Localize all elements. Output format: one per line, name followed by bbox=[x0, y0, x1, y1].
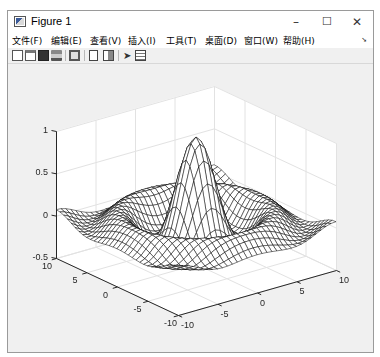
figure-window: Figure 1 – ☐ ✕ 文件(F) 编辑(E) 查看(V) 插入(I) 工… bbox=[7, 10, 374, 353]
toolbar-separator bbox=[118, 50, 119, 61]
maximize-button[interactable]: ☐ bbox=[312, 12, 342, 32]
toolbar-separator bbox=[84, 50, 85, 61]
x-tick-label: 10 bbox=[339, 275, 349, 285]
menu-help[interactable]: 帮助(H) bbox=[283, 34, 315, 47]
toolbar-separator bbox=[65, 50, 66, 61]
x-tick-label: 0 bbox=[260, 298, 265, 308]
y-tick-label: -10 bbox=[164, 318, 177, 328]
print-icon[interactable] bbox=[51, 50, 62, 61]
save-icon[interactable] bbox=[38, 50, 49, 61]
legend-icon[interactable] bbox=[103, 50, 114, 61]
menu-window[interactable]: 窗口(W) bbox=[244, 34, 278, 47]
open-folder-icon[interactable] bbox=[25, 50, 36, 61]
minimize-button[interactable]: – bbox=[281, 12, 311, 32]
plot-area[interactable]: -0.500.51-10-50510-10-50510 bbox=[10, 64, 371, 350]
menu-tools[interactable]: 工具(T) bbox=[166, 34, 197, 47]
surface-plot-canvas[interactable] bbox=[10, 64, 373, 352]
z-tick-label: 1 bbox=[43, 125, 48, 135]
y-tick-label: -5 bbox=[134, 304, 142, 314]
colorbar-icon[interactable] bbox=[89, 50, 98, 61]
close-button[interactable]: ✕ bbox=[342, 12, 372, 32]
y-tick-label: 0 bbox=[103, 290, 108, 300]
menu-insert[interactable]: 插入(I) bbox=[128, 34, 156, 47]
menu-edit[interactable]: 编辑(E) bbox=[51, 34, 82, 47]
y-tick-label: 10 bbox=[42, 261, 52, 271]
menu-bar: 文件(F) 编辑(E) 查看(V) 插入(I) 工具(T) 桌面(D) 窗口(W… bbox=[8, 33, 373, 48]
z-tick-label: 0 bbox=[43, 210, 48, 220]
menu-desktop[interactable]: 桌面(D) bbox=[205, 34, 237, 47]
x-tick-label: -5 bbox=[221, 309, 229, 319]
title-bar[interactable]: Figure 1 – ☐ ✕ bbox=[8, 11, 373, 33]
matlab-figure-icon bbox=[14, 16, 26, 27]
link-plot-icon[interactable] bbox=[69, 50, 80, 61]
x-tick-label: -10 bbox=[181, 320, 194, 330]
x-tick-label: 5 bbox=[300, 286, 305, 296]
new-file-icon[interactable] bbox=[12, 50, 23, 61]
property-inspector-icon[interactable] bbox=[135, 50, 146, 61]
pointer-icon[interactable]: ➤ bbox=[123, 50, 134, 61]
menu-file[interactable]: 文件(F) bbox=[12, 34, 42, 47]
z-tick-label: 0.5 bbox=[35, 167, 48, 177]
window-title: Figure 1 bbox=[31, 15, 71, 27]
dock-arrow-icon[interactable]: ➘ bbox=[361, 36, 367, 44]
menu-view[interactable]: 查看(V) bbox=[90, 34, 121, 47]
y-tick-label: 5 bbox=[73, 275, 78, 285]
figure-toolbar: ➤ bbox=[8, 48, 373, 64]
